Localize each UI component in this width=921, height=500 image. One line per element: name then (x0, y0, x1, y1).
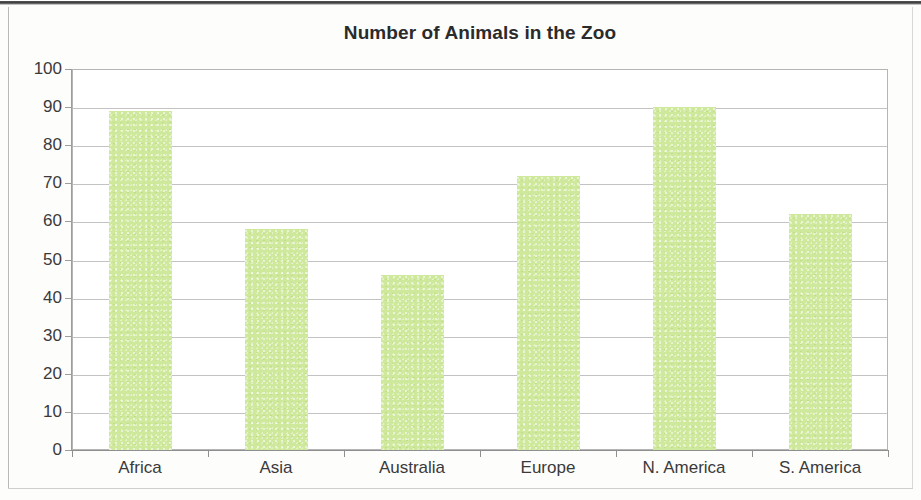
y-axis-tick (65, 221, 72, 222)
bar (653, 107, 716, 450)
y-axis-tick-label: 10 (4, 403, 62, 420)
y-axis-tick-label: 40 (4, 289, 62, 306)
bar-series (72, 69, 888, 450)
y-axis-tick (65, 260, 72, 261)
x-axis-tick-label: Australia (344, 458, 480, 478)
x-axis-tick (888, 451, 889, 457)
x-axis-tick-label: Africa (72, 458, 208, 478)
bar (109, 111, 172, 450)
y-axis-tick-label: 30 (4, 327, 62, 344)
x-axis-tick (616, 451, 617, 457)
bar (245, 229, 308, 450)
y-axis-tick (65, 412, 72, 413)
y-axis-tick (65, 145, 72, 146)
bar (517, 176, 580, 450)
y-axis-labels: 1009080706050403020100 (0, 0, 62, 500)
x-axis-tick (752, 451, 753, 457)
page-frame-bottom-border (8, 488, 913, 489)
y-axis-tick-label: 0 (4, 441, 62, 458)
bar (381, 275, 444, 450)
y-axis-tick-label: 80 (4, 136, 62, 153)
x-axis-tick (480, 451, 481, 457)
y-axis-tick-label: 20 (4, 365, 62, 382)
y-axis-tick (65, 183, 72, 184)
y-axis-tick-label: 90 (4, 98, 62, 115)
x-axis-labels: AfricaAsiaAustraliaEuropeN. AmericaS. Am… (72, 458, 888, 488)
y-axis-tick (65, 336, 72, 337)
x-axis-tick (208, 451, 209, 457)
y-axis-tick-label: 100 (4, 60, 62, 77)
y-axis-tick (65, 107, 72, 108)
x-axis-tick (72, 451, 73, 457)
x-axis-tick-label: S. America (752, 458, 888, 478)
page-frame-right-border (912, 7, 913, 489)
y-axis-tick-label: 60 (4, 212, 62, 229)
y-axis-tick (65, 69, 72, 70)
y-axis-tick (65, 374, 72, 375)
figure-page: Number of Animals in the Zoo 10090807060… (0, 0, 921, 500)
chart-title: Number of Animals in the Zoo (72, 22, 888, 44)
y-axis-tick (65, 298, 72, 299)
x-axis-tick-label: N. America (616, 458, 752, 478)
x-axis-tick (344, 451, 345, 457)
y-axis-tick-label: 50 (4, 251, 62, 268)
bar (789, 214, 852, 450)
x-axis-tick-label: Asia (208, 458, 344, 478)
scan-top-edge (0, 0, 921, 5)
x-axis-tick-label: Europe (480, 458, 616, 478)
y-axis-tick-label: 70 (4, 174, 62, 191)
